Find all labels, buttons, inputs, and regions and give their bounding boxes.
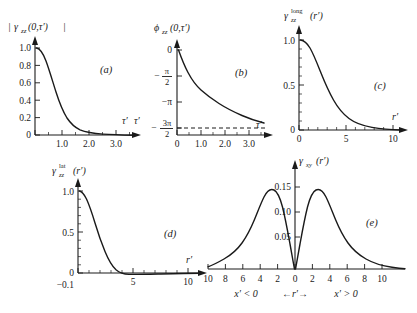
svg-text:2: 2 — [165, 77, 169, 87]
svg-text:τ′: τ′ — [134, 115, 141, 126]
svg-text:3π: 3π — [163, 118, 172, 128]
svg-text:2.0: 2.0 — [83, 139, 95, 149]
panel-a: | γ zz (0,τ′) | — [0, 0, 150, 160]
svg-text:5: 5 — [344, 134, 349, 144]
svg-text:0: 0 — [167, 45, 172, 55]
svg-text:(r′): (r′) — [310, 10, 323, 22]
svg-text:−π: −π — [162, 97, 172, 107]
figure-canvas: | γ zz (0,τ′) | — [0, 0, 417, 313]
svg-text:10: 10 — [183, 277, 193, 287]
svg-text:ϕ: ϕ — [154, 22, 159, 33]
panel-d-ylabel: γ zz lat (r′) — [52, 162, 86, 178]
svg-text:1.0: 1.0 — [19, 43, 31, 53]
svg-text:8: 8 — [362, 274, 367, 284]
panel-a-curve — [37, 48, 135, 135]
svg-text:5: 5 — [131, 277, 136, 287]
svg-text:8: 8 — [223, 274, 228, 284]
svg-text:10: 10 — [377, 274, 387, 284]
panel-e-x-ticks: 10 8 6 4 2 0 2 4 6 8 10 — [203, 264, 387, 284]
panel-e-label-right: x′ > 0 — [333, 288, 357, 299]
panel-c-curve — [301, 40, 402, 130]
svg-text:zz: zz — [58, 171, 65, 178]
svg-text:γ: γ — [52, 165, 57, 176]
svg-text:−0.1: −0.1 — [57, 280, 74, 290]
panel-d-y-ticks: 0 0.5 1.0 −0.1 — [57, 187, 83, 291]
svg-text:0: 0 — [297, 134, 302, 144]
svg-text:(r′): (r′) — [73, 165, 86, 177]
panel-a-xlabel: τ′ — [122, 115, 129, 126]
panel-e-letter: (e) — [366, 217, 378, 229]
panel-b-x-ticks: 0 1.0 2.0 3.0 — [175, 130, 261, 149]
panel-e-label-center: ←r′→ — [282, 288, 308, 299]
panel-e-axis-descriptors: x′ < 0 ←r′→ x′ > 0 — [233, 288, 357, 299]
svg-text:|: | — [8, 21, 11, 32]
svg-text:0: 0 — [175, 139, 180, 149]
panel-a-letter: (a) — [100, 64, 113, 76]
svg-text:0.2: 0.2 — [19, 113, 31, 123]
panel-b-left-tau: τ′ — [134, 115, 141, 126]
panel-c-x-ticks: 0 5 10 — [297, 125, 398, 144]
svg-text:0.15: 0.15 — [274, 182, 291, 192]
svg-text:r′: r′ — [186, 254, 193, 265]
svg-text:0.6: 0.6 — [19, 78, 31, 88]
panel-d: γ zz lat (r′) — [40, 155, 215, 313]
panel-a-x-ticks: 1.0 2.0 3.0 — [35, 130, 130, 149]
panel-b-ylabel: ϕ zz (0,τ′) — [154, 22, 191, 36]
panel-d-x-ticks: 5 10 — [78, 268, 193, 287]
svg-text:zz: zz — [20, 27, 27, 35]
svg-text:0: 0 — [293, 274, 298, 284]
svg-text:2: 2 — [310, 274, 315, 284]
svg-text:zz: zz — [161, 28, 168, 36]
panel-b-ytick-pi-over-2: − π 2 — [154, 66, 172, 87]
panel-e-curve-right — [296, 189, 406, 269]
svg-text:−: − — [154, 71, 159, 81]
svg-text:r′: r′ — [392, 111, 399, 122]
panel-c: γ zz long (r′) — [272, 0, 417, 160]
svg-text:0: 0 — [26, 130, 31, 140]
panel-b-curve — [179, 50, 265, 123]
svg-text:lat: lat — [59, 162, 66, 169]
svg-text:xy: xy — [305, 161, 312, 168]
svg-text:3.0: 3.0 — [110, 139, 122, 149]
panel-a-ylabel: | γ zz (0,τ′) | — [8, 21, 66, 35]
panel-b: ϕ zz (0,τ′) — [132, 0, 282, 160]
panel-a-y-ticks: 0 0.2 0.4 0.6 0.8 1.0 — [19, 43, 40, 140]
panel-e-axes — [208, 160, 405, 269]
svg-text:zz: zz — [290, 16, 297, 23]
svg-text:−: − — [151, 123, 156, 133]
panel-b-letter: (b) — [235, 67, 248, 79]
svg-text:0.8: 0.8 — [19, 61, 31, 71]
svg-text:γ: γ — [299, 155, 304, 166]
svg-text:γ: γ — [14, 21, 19, 32]
svg-text:10: 10 — [203, 274, 213, 284]
panel-d-letter: (d) — [164, 228, 177, 240]
svg-text:6: 6 — [345, 274, 350, 284]
svg-text:4: 4 — [258, 274, 263, 284]
panel-c-xlabel: r′ — [392, 111, 399, 122]
svg-text:2.0: 2.0 — [219, 139, 231, 149]
panel-d-curve — [80, 191, 201, 274]
svg-text:1.0: 1.0 — [283, 36, 295, 46]
panel-e: γ xy (r′) — [196, 152, 417, 313]
panel-b-xlabel: τ′ — [256, 119, 263, 130]
svg-text:τ′: τ′ — [256, 119, 263, 130]
svg-text:0: 0 — [69, 268, 74, 278]
panel-d-xlabel: r′ — [186, 254, 193, 265]
svg-text:2: 2 — [165, 129, 169, 139]
svg-text:0.5: 0.5 — [283, 81, 295, 91]
svg-text:long: long — [291, 7, 303, 14]
panel-e-y-ticks: 0.05 0.10 0.15 — [274, 182, 300, 242]
svg-text:4: 4 — [327, 274, 332, 284]
svg-text:1.0: 1.0 — [195, 139, 207, 149]
svg-text:3.0: 3.0 — [243, 139, 255, 149]
svg-text:10: 10 — [388, 134, 398, 144]
panel-e-ylabel: γ xy (r′) — [299, 155, 329, 168]
panel-c-ylabel: γ zz long (r′) — [284, 7, 323, 23]
svg-text:1.0: 1.0 — [56, 139, 68, 149]
svg-text:|: | — [63, 21, 66, 32]
svg-text:1.0: 1.0 — [62, 187, 74, 197]
svg-text:(0,τ′): (0,τ′) — [170, 22, 191, 34]
svg-text:π: π — [165, 66, 170, 76]
panel-e-curve-left — [208, 189, 295, 269]
svg-text:6: 6 — [240, 274, 245, 284]
